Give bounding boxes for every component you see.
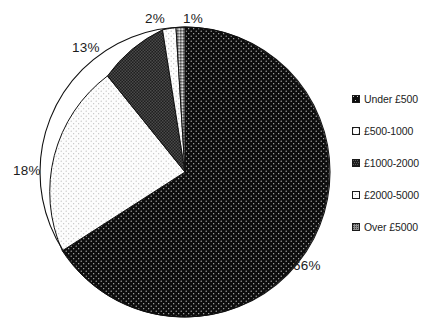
- legend-item-500-1000: £500-1000: [352, 124, 426, 138]
- legend-swatch-1000-2000: [352, 159, 360, 167]
- legend-label-under-500: Under £500: [364, 94, 418, 105]
- legend-label-500-1000: £500-1000: [364, 126, 413, 137]
- pie-chart-figure: 66% 18% 13% 2% 1% Under £500 £500-1000 £…: [0, 0, 426, 328]
- legend-label-over-5000: Over £5000: [364, 222, 418, 233]
- legend-label-1000-2000: £1000-2000: [364, 158, 419, 169]
- chart-legend: Under £500 £500-1000 £1000-2000 £2000-50…: [352, 92, 426, 234]
- legend-swatch-over-5000: [352, 223, 360, 231]
- legend-item-2000-5000: £2000-5000: [352, 188, 426, 202]
- pie-label-1000-2000: 13%: [72, 41, 100, 55]
- pie-label-500-1000: 18%: [13, 164, 41, 178]
- pie-label-under-500: 66%: [293, 259, 321, 273]
- legend-swatch-500-1000: [352, 127, 360, 135]
- pie-label-2000-5000: 2%: [145, 12, 165, 26]
- pie-label-over-5000: 1%: [183, 12, 203, 26]
- legend-item-1000-2000: £1000-2000: [352, 156, 426, 170]
- legend-item-over-5000: Over £5000: [352, 220, 426, 234]
- legend-label-2000-5000: £2000-5000: [364, 190, 419, 201]
- legend-swatch-2000-5000: [352, 191, 360, 199]
- legend-item-under-500: Under £500: [352, 92, 426, 106]
- legend-swatch-under-500: [352, 95, 360, 103]
